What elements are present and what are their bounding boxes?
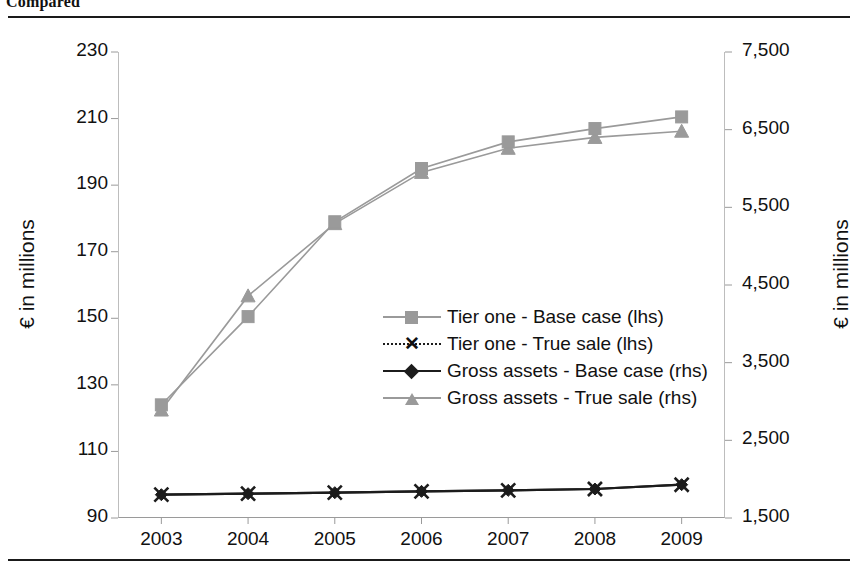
legend-item[interactable]: Tier one - Base case (lhs): [383, 303, 708, 330]
x-tick-label: 2009: [642, 528, 722, 550]
legend-label: Gross assets - True sale (rhs): [447, 387, 697, 408]
legend-marker-triangle-icon: [405, 393, 419, 405]
series-1: [154, 478, 688, 502]
data-point-square: [589, 123, 601, 135]
x-tick-label: 2003: [121, 528, 201, 550]
legend-key: ✕: [383, 334, 441, 354]
y-tick-label-left: 170: [44, 239, 108, 261]
y-tick-label-right: 4,500: [742, 272, 818, 294]
data-point-triangle: [675, 124, 689, 137]
legend-marker-square-icon: [405, 311, 418, 324]
y-tick-label-left: 110: [44, 438, 108, 460]
legend-marker-x-icon: ✕: [404, 337, 419, 352]
data-point-square: [155, 399, 167, 411]
y-tick-label-left: 210: [44, 106, 108, 128]
x-tick-label: 2008: [555, 528, 635, 550]
data-point-square: [502, 136, 514, 148]
legend-item[interactable]: Gross assets - Base case (rhs): [383, 357, 708, 384]
legend-label: Gross assets - Base case (rhs): [447, 360, 708, 381]
y-tick-label-left: 150: [44, 305, 108, 327]
y-tick-label-right: 5,500: [742, 194, 818, 216]
y-axis-title-right: € in millions: [829, 189, 853, 359]
legend-marker-diamond-icon: [404, 363, 420, 379]
x-tick-label: 2004: [208, 528, 288, 550]
data-point-square: [329, 216, 341, 228]
y-tick-label-right: 1,500: [742, 505, 818, 527]
y-tick-label-right: 3,500: [742, 350, 818, 372]
y-tick-label-left: 230: [44, 39, 108, 61]
x-tick-label: 2006: [382, 528, 462, 550]
legend-label: Tier one - True sale (lhs): [447, 333, 653, 354]
y-tick-label-right: 2,500: [742, 427, 818, 449]
x-tick-label: 2007: [468, 528, 548, 550]
chart-page: Compared € in millions € in millions 230…: [0, 0, 858, 580]
chart-legend: Tier one - Base case (lhs)✕Tier one - Tr…: [383, 303, 708, 411]
y-tick-label-right: 6,500: [742, 117, 818, 139]
y-tick-label-left: 130: [44, 372, 108, 394]
y-axis-title-left: € in millions: [15, 189, 39, 359]
legend-key: [383, 388, 441, 408]
x-tick-label: 2005: [295, 528, 375, 550]
data-point-square: [242, 311, 254, 323]
data-point-square: [416, 163, 428, 175]
legend-key: [383, 307, 441, 327]
y-tick-label-right: 7,500: [742, 39, 818, 61]
y-tick-label-left: 190: [44, 172, 108, 194]
y-tick-label-left: 90: [44, 505, 108, 527]
legend-label: Tier one - Base case (lhs): [447, 306, 664, 327]
data-point-square: [676, 111, 688, 123]
legend-key: [383, 361, 441, 381]
legend-item[interactable]: ✕Tier one - True sale (lhs): [383, 330, 708, 357]
legend-item[interactable]: Gross assets - True sale (rhs): [383, 384, 708, 411]
chart-canvas: [0, 0, 858, 580]
